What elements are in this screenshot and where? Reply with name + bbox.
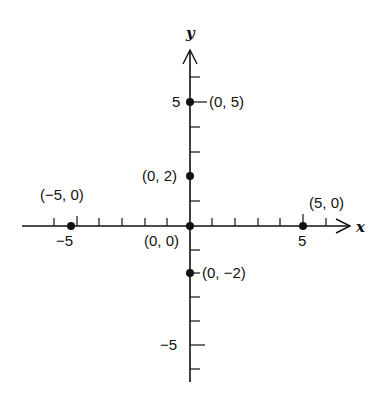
y-tick-label-5: 5 — [172, 93, 180, 110]
point-label-0-neg2: (0, −2) — [202, 264, 246, 281]
point-5-0 — [299, 222, 307, 230]
points — [67, 98, 307, 277]
x-tick-label-5: 5 — [298, 232, 306, 249]
point-label-5-0: (5, 0) — [309, 194, 344, 211]
x-axis-label: x — [355, 218, 366, 236]
point-label-neg5-0: (−5, 0) — [40, 186, 84, 203]
coordinate-plane: y x −5 5 5 −5 (−5, 0) (0, 0) (5, 0) (0, … — [0, 0, 383, 407]
y-axis-label: y — [185, 24, 196, 42]
point-label-0-2: (0, 2) — [142, 167, 177, 184]
point-0-2 — [186, 172, 194, 180]
y-tick-label-neg5: −5 — [160, 336, 177, 353]
point-neg5-0 — [67, 222, 75, 230]
point-0-5 — [186, 98, 194, 106]
point-label-origin: (0, 0) — [144, 232, 179, 249]
x-tick-label-neg5: −5 — [56, 232, 73, 249]
point-0-neg2 — [186, 269, 194, 277]
point-origin — [186, 222, 194, 230]
point-label-0-5: (0, 5) — [209, 93, 244, 110]
